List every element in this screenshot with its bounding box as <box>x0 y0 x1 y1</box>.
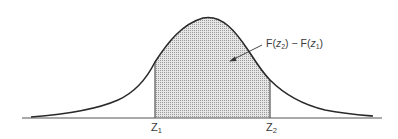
z2-label: Z2 <box>266 121 277 135</box>
normal-curve-diagram: F(z2) − F(z1) Z1 Z2 <box>0 0 398 139</box>
z1-label: Z1 <box>151 121 162 135</box>
annotation-label: F(z2) − F(z1) <box>266 37 323 50</box>
shaded-area <box>155 17 270 118</box>
diagram-canvas: F(z2) − F(z1) Z1 Z2 <box>0 0 398 139</box>
